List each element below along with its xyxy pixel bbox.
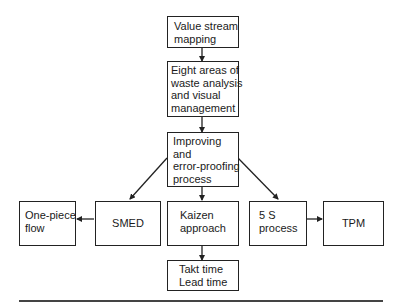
- node-label: One-piece: [25, 209, 71, 222]
- node-5s-process: 5 S process: [249, 201, 307, 246]
- node-label: process: [259, 222, 304, 235]
- node-label: Kaizen: [180, 209, 236, 222]
- node-improving-error-proofing: Improving and error-proofing process: [167, 132, 239, 187]
- node-label: Value stream: [174, 20, 234, 33]
- node-label: mapping: [174, 33, 234, 46]
- arrow-improve-to-smed: [130, 158, 167, 199]
- node-smed: SMED: [95, 201, 161, 246]
- node-label: Eight areas of: [171, 64, 236, 77]
- node-label: flow: [25, 222, 71, 235]
- node-value-stream-mapping: Value stream mapping: [167, 16, 239, 48]
- node-eight-areas-of-waste: Eight areas of waste analysis and visual…: [167, 61, 239, 117]
- node-label: Improving: [173, 135, 236, 148]
- node-label: Takt time: [179, 263, 236, 276]
- node-label: and: [173, 148, 236, 161]
- node-label: approach: [180, 222, 236, 235]
- node-label: and visual: [171, 89, 236, 102]
- node-one-piece-flow: One-piece flow: [19, 201, 76, 246]
- node-tpm: TPM: [323, 201, 384, 246]
- node-label: process: [173, 173, 236, 186]
- node-label: Lead time: [179, 276, 236, 289]
- node-label: 5 S: [259, 209, 304, 222]
- node-label: error-proofing: [173, 160, 236, 173]
- node-label: waste analysis: [171, 77, 236, 90]
- node-kaizen-approach: Kaizen approach: [167, 201, 239, 246]
- node-takt-lead-time: Takt time Lead time: [167, 260, 239, 291]
- arrow-improve-to-fives: [238, 158, 278, 199]
- node-label: TPM: [342, 217, 365, 230]
- bottom-divider: [19, 300, 383, 302]
- node-label: SMED: [112, 217, 144, 230]
- node-label: management: [171, 102, 236, 115]
